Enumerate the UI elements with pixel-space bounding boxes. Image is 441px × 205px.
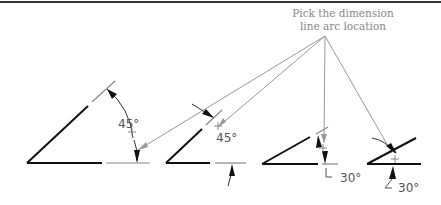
angle-label-3: 30° bbox=[340, 171, 361, 185]
leader-arrow-icon bbox=[321, 134, 327, 143]
angle-label-1: 45° bbox=[118, 117, 139, 131]
caption-line-1: Pick the dimension bbox=[268, 7, 418, 20]
instruction-caption: Pick the dimension line arc location bbox=[268, 7, 418, 33]
leader-lines bbox=[138, 36, 392, 153]
angle-label-2: 45° bbox=[216, 131, 237, 145]
caption-line-2: line arc location bbox=[268, 20, 418, 33]
figure-2 bbox=[166, 104, 246, 186]
leader-arrow-icon bbox=[138, 142, 148, 150]
angle-label-4: 30° bbox=[398, 181, 419, 195]
